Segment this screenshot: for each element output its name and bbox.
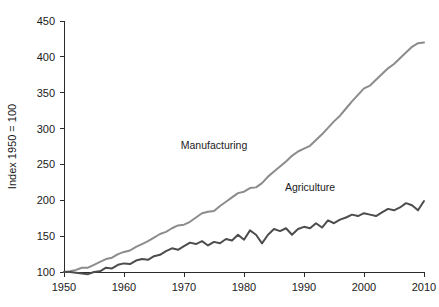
x-tick-label: 1980: [232, 281, 256, 293]
x-tick-label: 1960: [112, 281, 136, 293]
series-label-agriculture: Agriculture: [285, 181, 335, 193]
x-tick-group: 1950196019701980199020002010: [52, 272, 436, 293]
y-tick-label: 250: [37, 158, 55, 170]
series-line-agriculture: [64, 201, 424, 274]
y-tick-label: 450: [37, 15, 55, 27]
y-tick-label: 350: [37, 87, 55, 99]
x-tick-label: 1990: [292, 281, 316, 293]
y-axis: 100150200250300350400450: [37, 15, 64, 278]
y-tick-label: 200: [37, 194, 55, 206]
y-tick-label: 300: [37, 123, 55, 135]
series-label-manufacturing: Manufacturing: [181, 139, 248, 151]
x-axis: 1950196019701980199020002010: [52, 272, 436, 293]
chart-container: 100150200250300350400450 195019601970198…: [0, 0, 439, 307]
y-tick-group: 100150200250300350400450: [37, 15, 64, 278]
y-tick-label: 400: [37, 51, 55, 63]
line-chart: 100150200250300350400450 195019601970198…: [0, 0, 439, 307]
x-tick-label: 2010: [412, 281, 436, 293]
x-tick-label: 1970: [172, 281, 196, 293]
series-line-manufacturing: [64, 43, 424, 272]
series-layer: [64, 43, 424, 275]
y-axis-title: Index 1950 = 100: [6, 104, 18, 189]
y-tick-label: 100: [37, 266, 55, 278]
x-tick-label: 2000: [352, 281, 376, 293]
x-tick-label: 1950: [52, 281, 76, 293]
y-tick-label: 150: [37, 230, 55, 242]
